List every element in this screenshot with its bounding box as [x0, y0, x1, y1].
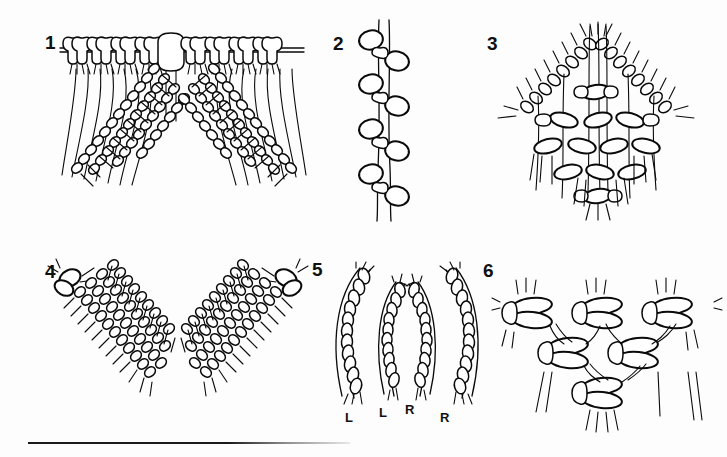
- figure-1-double-half-hitch-v-shape: [58, 25, 310, 210]
- fig4-right-band: [180, 258, 308, 396]
- fig1-left-diagonal-rows: [62, 62, 191, 186]
- figure-2-vertical-chain-of-loops: [352, 18, 416, 223]
- fig5-cord-1: [336, 262, 374, 404]
- figure-3-diamond-lattice-panel: [478, 22, 708, 222]
- fig3-top-fringe: [590, 22, 606, 36]
- figure-5-cord-1-label: L: [345, 411, 353, 424]
- fig6-row-3: [572, 376, 623, 432]
- fig4-left-corner-knot: [48, 259, 94, 299]
- diagram-plate: 1: [0, 0, 727, 457]
- figure-5-cord-3-label: R: [405, 403, 414, 416]
- fig3-top-right-edge: [593, 24, 694, 118]
- fig3-lattice-knots: [533, 83, 661, 205]
- fig6-row-2: [538, 336, 659, 370]
- fig4-right-corner-knot: [262, 259, 308, 299]
- figure-4-two-diagonal-knot-bands: [48, 258, 308, 418]
- fig4-left-band: [48, 258, 176, 396]
- fig3-top-left-edge: [498, 24, 599, 118]
- figure-5-four-curved-cords: [320, 262, 480, 412]
- figure-5-cord-4-label: R: [440, 411, 449, 424]
- figure-6-open-net-v-panel: [492, 268, 722, 428]
- fig5-cord-4: [440, 262, 478, 404]
- figure-2-number: 2: [333, 34, 344, 53]
- bottom-rule: [28, 442, 350, 444]
- figure-1-number: 1: [45, 33, 56, 52]
- fig1-right-diagonal-rows: [177, 62, 306, 186]
- fig6-row-1: [502, 278, 698, 350]
- figure-5-cord-2-label: L: [379, 406, 387, 419]
